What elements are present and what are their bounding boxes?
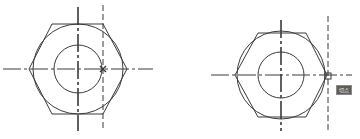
nut-view-right: [211, 16, 352, 131]
snap-tooltip: 切点: [336, 85, 352, 95]
snap-tooltip-label: 切点: [339, 87, 349, 93]
cad-drawing-canvas: [0, 0, 360, 139]
nut-view-left: [3, 5, 153, 131]
